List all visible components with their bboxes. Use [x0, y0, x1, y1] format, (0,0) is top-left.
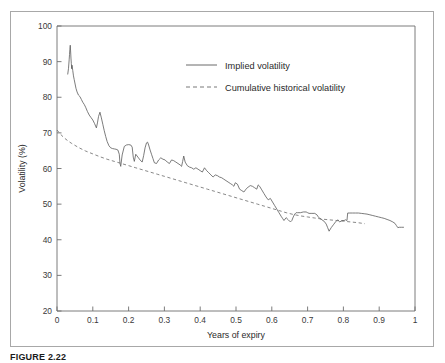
figure-caption-strip: FIGURE 2.22: [10, 352, 434, 363]
volatility-chart: 2030405060708090100 00.10.20.30.40.50.60…: [10, 11, 434, 347]
y-tick-label: 60: [43, 164, 53, 174]
x-tick-label: 0.6: [266, 315, 278, 325]
x-tick-label: 0.9: [373, 315, 385, 325]
y-tick-label: 50: [43, 199, 53, 209]
y-tick-label: 70: [43, 128, 53, 138]
legend-label-implied-volatility: Implied volatility: [225, 61, 290, 71]
x-tick-label: 0.1: [87, 315, 99, 325]
figure-root: 2030405060708090100 00.10.20.30.40.50.60…: [0, 0, 445, 363]
y-tick-label: 100: [38, 21, 52, 31]
y-tick-label: 40: [43, 235, 53, 245]
x-tick-label: 0.7: [302, 315, 314, 325]
figure-caption: FIGURE 2.22: [10, 352, 434, 363]
y-tick-label: 30: [43, 270, 53, 280]
y-axis-title: Volatility (%): [17, 144, 27, 192]
x-axis-title: Years of expiry: [207, 330, 265, 340]
x-tick-label: 0.8: [338, 315, 350, 325]
y-tick-label: 20: [43, 306, 53, 316]
x-tick-label: 0.5: [230, 315, 242, 325]
x-tick-label: 1: [413, 315, 418, 325]
x-tick-label: 0.3: [159, 315, 171, 325]
x-tick-label: 0.2: [123, 315, 135, 325]
legend-label-cumulative-historical-volatility: Cumulative historical volatility: [225, 83, 345, 93]
x-tick-label: 0.4: [194, 315, 206, 325]
y-tick-label: 80: [43, 92, 53, 102]
y-tick-label: 90: [43, 57, 53, 67]
x-tick-label: 0: [55, 315, 60, 325]
